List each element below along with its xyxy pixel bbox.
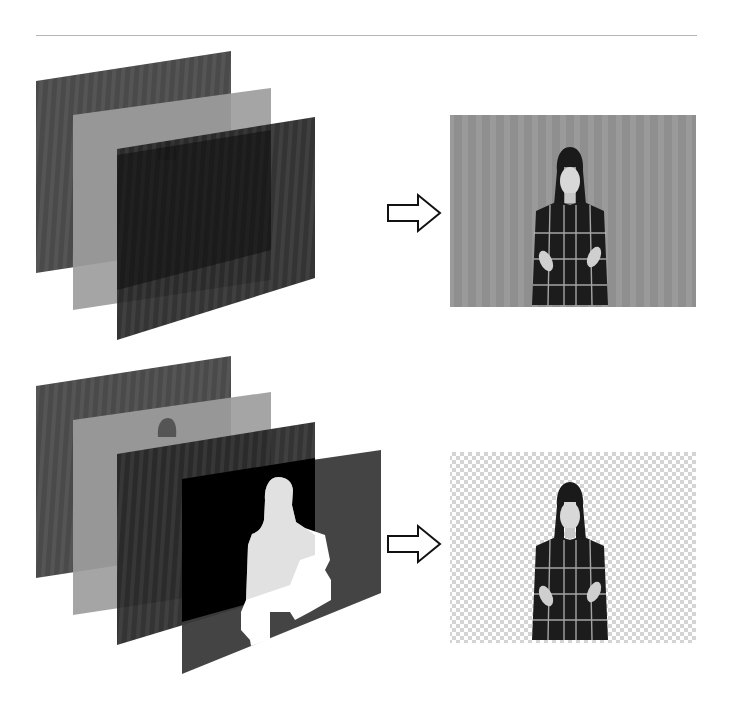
matte-row: [36, 356, 696, 674]
right-arrow-icon: [388, 195, 440, 231]
diagram-canvas: [0, 0, 733, 701]
composite-frame: [450, 115, 696, 307]
layer-stack: [36, 51, 315, 340]
composite-row: [36, 51, 696, 340]
layer-stack: [36, 356, 381, 674]
right-arrow-icon: [388, 526, 440, 562]
keyed-frame: [450, 452, 696, 643]
alpha-matte: [182, 450, 381, 674]
